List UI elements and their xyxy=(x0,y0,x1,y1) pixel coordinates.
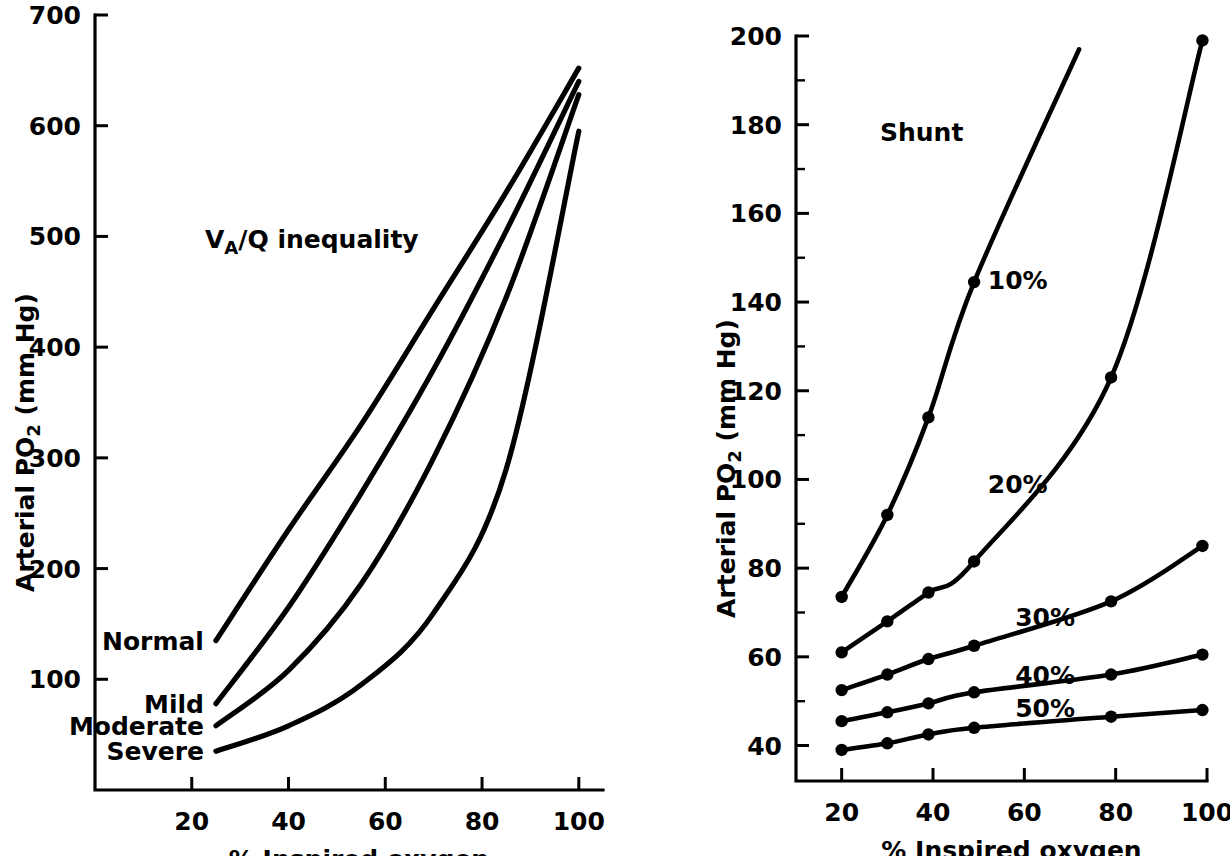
shunt-title: Shunt xyxy=(880,118,963,147)
x-tick-label: 20 xyxy=(824,798,859,827)
x-axis-ticks: 20406080100 xyxy=(174,777,605,836)
x-tick-label: 100 xyxy=(1181,798,1230,827)
series-curve-normal xyxy=(216,68,579,640)
series-labels: NormalMildModerateSevere xyxy=(69,627,204,767)
series-label-20pct: 20% xyxy=(988,470,1048,499)
series-label-50pct: 50% xyxy=(1015,694,1075,723)
series-label-10pct: 10% xyxy=(988,266,1048,295)
figure-root: 10020030040050060070020406080100% Inspir… xyxy=(0,0,1230,856)
y-tick-label: 700 xyxy=(29,1,81,30)
data-point-marker xyxy=(881,668,893,680)
data-point-marker xyxy=(922,728,934,740)
y-tick-label: 180 xyxy=(730,111,782,140)
data-point-marker xyxy=(922,653,934,665)
chart-panel-shunt: 40608010012014016018020020406080100% Ins… xyxy=(615,0,1230,856)
y-axis-title-text: Arterial PO2 (mm Hg) xyxy=(11,293,44,592)
data-point-marker xyxy=(835,744,847,756)
x-axis-ticks: 20406080100 xyxy=(824,768,1230,827)
data-point-marker xyxy=(922,411,934,423)
x-tick-label: 80 xyxy=(465,807,500,836)
y-tick-label: 100 xyxy=(29,665,81,694)
data-point-marker xyxy=(922,586,934,598)
panel-annotation-va-q: VA/Q inequality xyxy=(205,225,419,258)
x-axis-title: % Inspired oxygen xyxy=(229,845,489,856)
series-label-40pct: 40% xyxy=(1015,661,1075,690)
data-point-marker xyxy=(1196,648,1208,660)
data-point-marker xyxy=(968,686,980,698)
data-point-marker xyxy=(922,697,934,709)
y-tick-label: 200 xyxy=(730,22,782,51)
va-q-inequality-label: VA/Q inequality xyxy=(205,225,419,258)
data-point-marker xyxy=(1196,540,1208,552)
series-group xyxy=(216,68,579,751)
series-label-severe: Severe xyxy=(106,737,204,766)
y-tick-label: 40 xyxy=(747,732,782,761)
data-point-marker xyxy=(881,737,893,749)
chart-panel-va-q-inequality: 10020030040050060070020406080100% Inspir… xyxy=(0,0,615,856)
data-point-marker xyxy=(968,640,980,652)
series-label-normal: Normal xyxy=(102,627,204,656)
data-point-marker xyxy=(835,684,847,696)
x-tick-label: 80 xyxy=(1098,798,1133,827)
x-tick-label: 100 xyxy=(553,807,605,836)
data-point-marker xyxy=(1105,711,1117,723)
x-tick-label: 20 xyxy=(174,807,209,836)
x-tick-label: 40 xyxy=(271,807,306,836)
data-point-marker xyxy=(1196,34,1208,46)
data-point-marker xyxy=(881,706,893,718)
shunt-plot: 40608010012014016018020020406080100% Ins… xyxy=(615,0,1230,856)
x-tick-label: 60 xyxy=(368,807,403,836)
data-point-marker xyxy=(835,591,847,603)
data-point-marker xyxy=(1196,704,1208,716)
data-point-marker xyxy=(968,276,980,288)
data-point-marker xyxy=(835,646,847,658)
data-point-marker xyxy=(968,722,980,734)
y-tick-label: 600 xyxy=(29,112,81,141)
series-label-30pct: 30% xyxy=(1015,603,1075,632)
data-point-marker xyxy=(1105,595,1117,607)
y-tick-label: 500 xyxy=(29,222,81,251)
y-tick-label: 160 xyxy=(730,199,782,228)
y-tick-label: 140 xyxy=(730,288,782,317)
va-q-inequality-plot: 10020030040050060070020406080100% Inspir… xyxy=(0,0,615,856)
data-point-marker xyxy=(1105,371,1117,383)
data-point-marker xyxy=(881,615,893,627)
y-tick-label: 60 xyxy=(747,643,782,672)
y-axis-title-text: Arterial PO2 (mm Hg) xyxy=(712,319,745,618)
axis-frame xyxy=(95,15,603,790)
data-point-marker xyxy=(968,555,980,567)
y-axis-title: Arterial PO2 (mm Hg) xyxy=(712,319,745,618)
data-point-marker xyxy=(835,715,847,727)
y-tick-label: 80 xyxy=(747,554,782,583)
x-tick-label: 60 xyxy=(1007,798,1042,827)
x-axis-title: % Inspired oxygen xyxy=(881,836,1141,856)
data-point-marker xyxy=(881,509,893,521)
x-tick-label: 40 xyxy=(916,798,951,827)
series-labels: 10%20%30%40%50% xyxy=(988,266,1075,723)
data-point-marker xyxy=(1105,668,1117,680)
y-axis-title: Arterial PO2 (mm Hg) xyxy=(11,293,44,592)
